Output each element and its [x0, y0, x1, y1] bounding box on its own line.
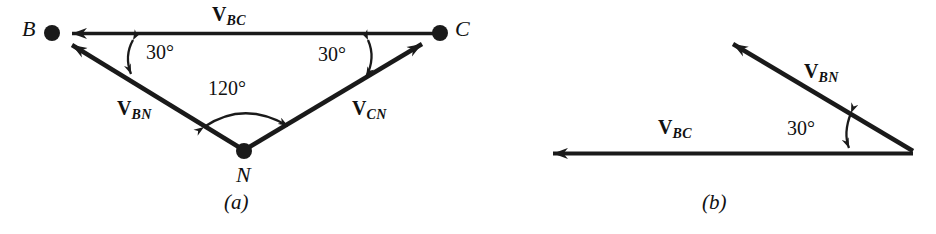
angle-arc-30-b: [846, 113, 851, 148]
vector-label-bn-a-v: V: [117, 97, 131, 119]
angle-arc-120: [204, 113, 288, 127]
node-label-n: N: [236, 164, 251, 186]
caption-b: (b): [702, 192, 727, 213]
angle-label-30-left: 30°: [146, 42, 174, 62]
vector-label-cn-a-v: V: [352, 97, 366, 119]
vector-label-bc-b-sub: BC: [672, 126, 691, 141]
vector-label-cn-a: VCN: [352, 98, 387, 122]
node-label-b: B: [22, 18, 35, 40]
vector-label-bc-a: VBC: [212, 4, 246, 28]
vector-label-bn-b-sub: BN: [818, 70, 838, 85]
angle-label-30-b: 30°: [787, 118, 815, 138]
vector-label-bc-a-sub: BC: [226, 13, 245, 28]
vector-label-bn-b-v: V: [804, 60, 818, 82]
angle-arc-30-right: [366, 40, 372, 77]
vector-label-bc-b: VBC: [658, 117, 692, 141]
caption-a: (a): [224, 192, 249, 213]
panel-b-graphics: [553, 44, 913, 154]
node-dot-c: [432, 25, 448, 41]
vector-label-bn-a: VBN: [117, 98, 152, 122]
node-dot-b: [44, 25, 60, 41]
vector-label-cn-a-sub: CN: [366, 107, 386, 122]
angle-label-120: 120°: [208, 78, 246, 98]
vector-label-bn-b: VBN: [804, 61, 839, 85]
node-dot-n: [236, 143, 252, 159]
angle-arc-30-left: [128, 40, 133, 74]
figure-canvas: VBC B C N 30° 30° 120° VBN VCN (a) VBN V…: [0, 0, 936, 234]
angle-label-30-right: 30°: [318, 44, 346, 64]
vector-label-bc-b-v: V: [658, 116, 672, 138]
vector-label-bn-a-sub: BN: [131, 107, 151, 122]
node-label-c: C: [455, 18, 470, 40]
vector-label-bc-a-v: V: [212, 3, 226, 25]
panel-a-graphics: [44, 25, 448, 159]
